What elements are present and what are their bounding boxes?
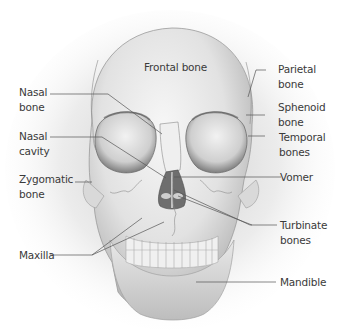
left-orbit (95, 112, 156, 173)
label-temporal-bones: Temporal bones (279, 130, 325, 160)
right-orbit (186, 112, 247, 173)
skull-diagram: Frontal bone Nasal bone Nasal cavity Zyg… (0, 0, 342, 333)
label-nasal-bone: Nasal bone (19, 85, 47, 115)
label-maxilla: Maxilla (19, 248, 55, 263)
label-parietal-bone: Parietal bone (278, 62, 316, 92)
label-sphenoid-bone: Sphenoid bone (278, 100, 326, 130)
label-nasal-cavity: Nasal cavity (19, 129, 49, 159)
label-mandible: Mandible (280, 275, 326, 290)
label-vomer: Vomer (280, 170, 313, 185)
label-zygomatic-bone: Zygomatic bone (19, 172, 73, 202)
label-turbinate-bones: Turbinate bones (280, 218, 327, 248)
label-frontal-bone: Frontal bone (144, 60, 207, 75)
